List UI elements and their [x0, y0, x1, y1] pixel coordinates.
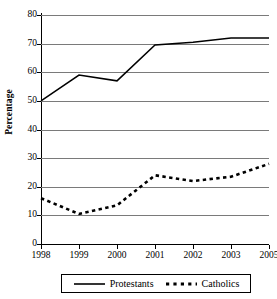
- x-tick-label-2003: 2003: [211, 250, 251, 261]
- legend-item-protestants: Protestants: [73, 279, 154, 289]
- x-tick-label-1999: 1999: [59, 250, 99, 261]
- y-tick-label-20: 20: [17, 182, 37, 192]
- x-tick-mark-1998: [41, 245, 42, 249]
- chart-figure: Percentage 80706050403020100 19981999200…: [0, 0, 277, 299]
- y-tick-label-40: 40: [17, 125, 37, 135]
- x-tick-mark-2003: [231, 245, 232, 249]
- x-tick-mark-2000: [117, 245, 118, 249]
- legend-swatch-catholics: [165, 279, 198, 289]
- x-tick-mark-1999: [79, 245, 80, 249]
- chart-legend: ProtestantsCatholics: [61, 274, 251, 293]
- y-tick-label-50: 50: [17, 96, 37, 106]
- x-tick-label-2000: 2000: [97, 250, 137, 261]
- x-tick-mark-2001: [155, 245, 156, 249]
- series-layer: [41, 15, 269, 244]
- series-line-catholics: [41, 164, 269, 214]
- y-tick-label-30: 30: [17, 153, 37, 163]
- x-tick-label-2005: 2005: [249, 250, 277, 261]
- legend-swatch-protestants: [73, 279, 106, 289]
- y-axis-title: Percentage: [4, 72, 14, 152]
- x-tick-label-2001: 2001: [135, 250, 175, 261]
- x-tick-mark-2005: [269, 245, 270, 249]
- y-tick-label-60: 60: [17, 67, 37, 77]
- legend-label: Protestants: [110, 279, 154, 289]
- plot-area: [41, 15, 269, 244]
- legend-item-catholics: Catholics: [165, 279, 240, 289]
- x-tick-mark-2002: [193, 245, 194, 249]
- y-tick-label-0: 0: [17, 239, 37, 249]
- y-tick-label-70: 70: [17, 39, 37, 49]
- y-tick-label-80: 80: [17, 10, 37, 20]
- x-tick-label-2002: 2002: [173, 250, 213, 261]
- x-axis-tick-labels: 1998199920002001200220032005: [41, 250, 269, 264]
- x-tick-label-1998: 1998: [21, 250, 61, 261]
- y-tick-label-10: 10: [17, 210, 37, 220]
- y-axis-tick-labels: 80706050403020100: [15, 15, 37, 244]
- legend-label: Catholics: [202, 279, 240, 289]
- series-line-protestants: [41, 38, 269, 101]
